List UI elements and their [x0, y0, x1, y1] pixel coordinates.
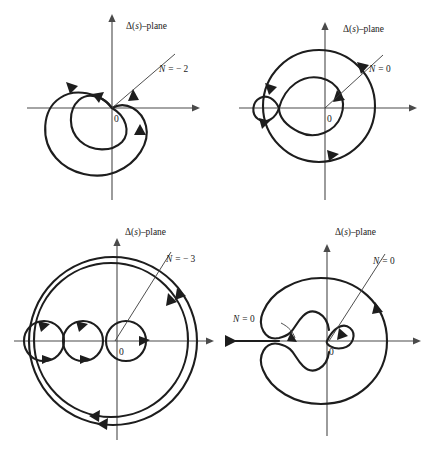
secondary-n-symbol: N [232, 314, 240, 324]
nyquist-outer-circle-b [34, 263, 188, 417]
plane-label-tail: )–plane [348, 227, 376, 238]
direction-arrow [225, 335, 237, 347]
encirclement-pointer-line [115, 252, 171, 341]
encirclement-n-symbol: N [165, 254, 173, 264]
direction-arrow [80, 355, 91, 364]
x-axis-arrowhead [192, 104, 200, 111]
encirclement-value: = − 3 [175, 254, 195, 264]
axes-top-right [239, 22, 417, 200]
encirclement-label: N= − 2 [158, 64, 189, 74]
direction-arrow [337, 328, 348, 340]
encirclement-value: = 0 [378, 64, 391, 74]
origin-label: 0 [114, 113, 119, 124]
panel-top-left: Δ(s)–plane N= − 2 0 [0, 0, 217, 228]
secondary-encirclement-label: N= 0 [232, 314, 255, 324]
plane-label-tail: )–plane [356, 24, 384, 35]
x-axis-arrowhead [413, 337, 421, 344]
secondary-value: = 0 [242, 314, 255, 324]
axes-bottom-left [14, 238, 214, 440]
panel-bottom-left: Δ(s)–plane N= − 3 0 [0, 228, 217, 456]
panel-bottom-right: Δ(s)–plane N= 0 N= 0 0 [217, 228, 434, 456]
direction-arrow [42, 355, 53, 364]
plane-label: Δ(s)–plane [343, 24, 384, 35]
direction-arrow [89, 410, 100, 422]
plane-label: Δ(s)–plane [125, 227, 166, 238]
plane-label: Δ(s)–plane [126, 21, 167, 32]
encirclement-n-symbol: N [372, 256, 380, 266]
plane-label-delta: Δ( [126, 21, 135, 32]
direction-arrow [38, 321, 50, 332]
nyquist-figure-eight-right-lobe [279, 77, 343, 135]
direction-arrow [76, 321, 88, 332]
y-axis-arrowhead [108, 14, 115, 22]
y-axis-arrowhead [321, 22, 328, 30]
encirclement-value: = − 2 [168, 64, 188, 74]
encirclement-value: = 0 [382, 256, 395, 266]
origin-label: 0 [119, 346, 124, 357]
encirclement-n-symbol: N [158, 64, 166, 74]
y-axis-arrowhead [323, 244, 330, 252]
encirclement-label: N= − 3 [165, 254, 196, 264]
encirclement-pointer-line [112, 54, 175, 108]
encirclement-n-symbol: N [368, 64, 376, 74]
plane-label-delta: Δ( [343, 24, 352, 35]
plane-label: Δ(s)–plane [335, 227, 376, 238]
nyquist-figure-eight-left-lobe [253, 97, 279, 122]
direction-arrow [92, 92, 104, 103]
plane-label-tail: )–plane [138, 227, 166, 238]
panel-top-right: Δ(s)–plane N= 0 0 [217, 0, 434, 228]
plane-label-tail: )–plane [139, 21, 167, 32]
encirclement-label: N= 0 [368, 64, 391, 74]
direction-arrow [128, 89, 139, 101]
direction-arrow [134, 124, 146, 135]
plane-label-delta: Δ( [125, 227, 134, 238]
x-axis-arrowhead [206, 337, 214, 344]
encirclement-pointer-line [329, 254, 385, 341]
plane-label-delta: Δ( [335, 227, 344, 238]
nyquist-figure: Δ(s)–plane N= − 2 0 [0, 0, 434, 456]
nyquist-outer-loop [45, 93, 147, 176]
encirclement-label: N= 0 [372, 256, 395, 266]
origin-label: 0 [327, 113, 332, 124]
x-axis-arrowhead [409, 104, 417, 111]
direction-arrow [265, 83, 277, 95]
y-axis-arrowhead [113, 238, 120, 246]
origin-label: 0 [329, 346, 334, 357]
